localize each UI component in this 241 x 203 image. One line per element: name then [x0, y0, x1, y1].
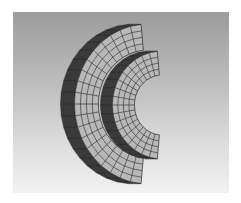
- mesh-scene: [0, 0, 241, 203]
